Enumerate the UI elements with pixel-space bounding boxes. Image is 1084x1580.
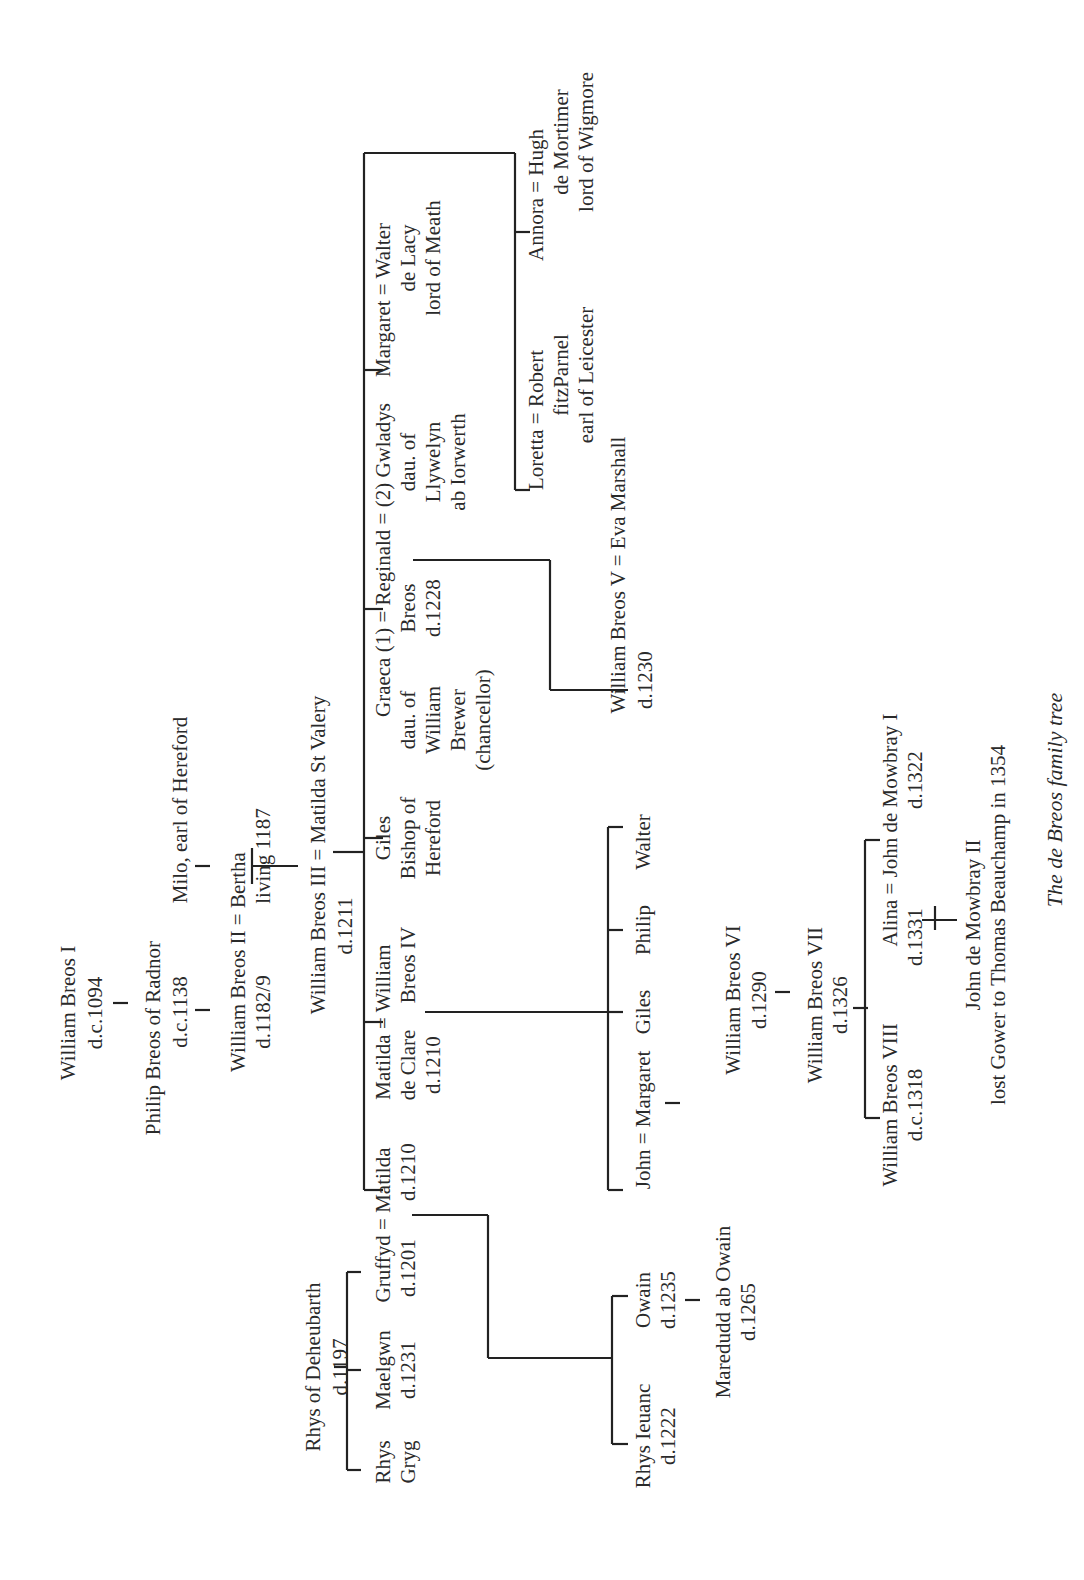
svg-text:William Breos VIII: William Breos VIII [878,1023,902,1186]
svg-text:dau. of: dau. of [396,433,420,491]
svg-text:Rhys: Rhys [371,1440,395,1483]
person-matilda-de-clare-william-iv: Matilda = William de Clare d.1210 Breos … [371,927,445,1100]
svg-text:d.c.1094: d.c.1094 [83,976,107,1049]
svg-text:Philip Breos of Radnor: Philip Breos of Radnor [141,941,165,1135]
svg-text:d.1230: d.1230 [633,651,657,709]
svg-text:earl of Leicester: earl of Leicester [574,307,598,443]
svg-text:de Clare: de Clare [396,1030,420,1101]
svg-text:(chancellor): (chancellor) [471,669,495,770]
svg-text:Loretta = Robert: Loretta = Robert [524,350,548,490]
svg-text:d.1210: d.1210 [421,1036,445,1094]
svg-text:d.1211: d.1211 [333,898,357,955]
svg-text:Giles: Giles [371,816,395,860]
svg-text:John = Margaret: John = Margaret [631,1051,655,1190]
person-william-breos-vii: William Breos VII d.1326 [803,927,852,1083]
svg-text:Margaret = Walter: Margaret = Walter [371,223,395,377]
svg-text:William Breos VI: William Breos VI [721,925,745,1074]
svg-text:William: William [421,686,445,754]
person-philip: Philip [631,905,655,955]
person-william-breos-i: William Breos I d.c.1094 [56,946,107,1080]
person-maredudd-ab-owain: Maredudd ab Owain d.1265 [711,1225,760,1398]
svg-text:lord of Wigmore: lord of Wigmore [574,72,598,212]
svg-text:d.1331: d.1331 [903,908,927,966]
svg-text:Breos: Breos [396,584,420,633]
svg-text:d.1222: d.1222 [656,1407,680,1465]
svg-text:Gruffyd = Matilda: Gruffyd = Matilda [371,1147,395,1303]
person-reginald-breos: Graeca (1) = Reginald = (2) Gwladys dau.… [371,403,495,771]
svg-text:fitzParnel: fitzParnel [549,334,573,416]
svg-text:Maelgwn: Maelgwn [371,1330,395,1410]
family-tree-diagram: William Breos I d.c.1094 Philip Breos of… [0,0,1084,1580]
svg-text:Philip: Philip [631,905,655,955]
svg-text:d.1290: d.1290 [747,971,771,1029]
person-philip-breos: Philip Breos of Radnor d.c.1138 [141,941,192,1135]
person-john-de-mowbray-ii: John de Mowbray II lost Gower to Thomas … [961,744,1010,1105]
person-milo: Milo, earl of Hereford [168,716,192,903]
svg-text:William Breos V = Eva Marshall: William Breos V = Eva Marshall [606,436,630,713]
svg-text:d.1210: d.1210 [396,1143,420,1201]
person-rhys-of-deheubarth: Rhys of Deheubarth d.1197 [301,1282,352,1452]
person-alina-john-de-mowbray-i: Alina = John de Mowbray I d.1331 d.1322 [878,714,927,966]
person-annora-hugh-de-mortimer: Annora = Hugh de Mortimer lord of Wigmor… [524,72,598,261]
person-giles-bishop: Giles Bishop of Hereford [371,797,445,879]
svg-text:Alina = John de Mowbray I: Alina = John de Mowbray I [878,714,902,947]
svg-text:d.1235: d.1235 [656,1271,680,1329]
svg-text:Llywelyn: Llywelyn [421,421,445,502]
person-giles: Giles [631,990,655,1034]
person-john-margaret: John = Margaret [631,1051,655,1190]
svg-text:Rhys of Deheubarth: Rhys of Deheubarth [301,1282,325,1452]
svg-text:William Breos I: William Breos I [56,946,80,1080]
svg-text:d.1228: d.1228 [421,579,445,637]
svg-text:William Breos III = Matilda S: William Breos III = Matilda St Valery [306,695,330,1014]
svg-text:d.c.1138: d.c.1138 [168,976,192,1048]
person-gruffyd-matilda: Gruffyd = Matilda d.1201 d.1210 [371,1143,420,1302]
svg-text:Owain: Owain [631,1272,655,1328]
person-william-breos-viii: William Breos VIII d.c.1318 [878,1023,927,1186]
svg-text:d.1182/9: d.1182/9 [251,975,275,1048]
svg-text:William Breos II = Bertha: William Breos II = Bertha [226,851,250,1071]
svg-text:de Mortimer: de Mortimer [549,89,573,195]
svg-text:Hereford: Hereford [421,800,445,876]
svg-text:d.1326: d.1326 [828,976,852,1034]
person-walter: Walter [631,814,655,869]
svg-text:Gryg: Gryg [396,1440,420,1484]
svg-text:d.1322: d.1322 [903,751,927,809]
person-maelgwn: Maelgwn d.1231 [371,1330,420,1410]
person-rhys-ieuanc: Rhys Ieuanc d.1222 [631,1384,680,1488]
svg-text:Graeca (1) = Reginald = (2) Gw: Graeca (1) = Reginald = (2) Gwladys [371,403,395,717]
svg-text:Bishop of: Bishop of [396,797,420,879]
svg-text:lord of Meath: lord of Meath [421,200,445,316]
svg-text:d.1231: d.1231 [396,1341,420,1399]
svg-text:John de Mowbray II: John de Mowbray II [961,840,985,1011]
person-loretta-robert-fitzparnel: Loretta = Robert fitzParnel earl of Leic… [524,307,598,490]
svg-text:Matilda = William: Matilda = William [371,944,395,1099]
svg-text:Giles: Giles [631,990,655,1034]
person-william-breos-vi: William Breos VI d.1290 [721,925,771,1074]
svg-text:dau. of: dau. of [396,691,420,749]
person-margaret-walter-de-lacy: Margaret = Walter de Lacy lord of Meath [371,200,445,377]
person-william-breos-iii: William Breos III = Matilda St Valery d.… [306,695,357,1014]
person-rhys-gryg: Rhys Gryg [371,1440,420,1484]
svg-text:Breos IV: Breos IV [396,927,420,1003]
diagram-caption: The de Breos family tree [1042,692,1067,907]
person-william-breos-v: William Breos V = Eva Marshall d.1230 [606,436,657,713]
person-owain: Owain d.1235 [631,1271,680,1329]
svg-text:Maredudd ab Owain: Maredudd ab Owain [711,1225,735,1398]
svg-text:d.1201: d.1201 [396,1239,420,1297]
svg-text:Brewer: Brewer [446,689,470,751]
svg-text:ab Iorwerth: ab Iorwerth [446,413,470,511]
person-william-breos-ii: William Breos II = Bertha d.1182/9 livin… [226,808,275,1072]
svg-text:d.1265: d.1265 [736,1283,760,1341]
svg-text:d.c.1318: d.c.1318 [903,1069,927,1141]
svg-text:living 1187: living 1187 [251,808,275,903]
svg-text:William Breos VII: William Breos VII [803,927,827,1083]
svg-text:lost Gower to Thomas Beauchamp: lost Gower to Thomas Beauchamp in 1354 [986,744,1010,1105]
svg-text:Annora = Hugh: Annora = Hugh [524,129,548,261]
svg-text:de Lacy: de Lacy [396,224,420,292]
tree-canvas: William Breos I d.c.1094 Philip Breos of… [0,0,1084,1580]
svg-text:d.1197: d.1197 [328,1339,352,1396]
svg-text:Rhys Ieuanc: Rhys Ieuanc [631,1384,655,1488]
svg-text:Milo, earl of Hereford: Milo, earl of Hereford [168,716,192,903]
svg-text:Walter: Walter [631,814,655,869]
